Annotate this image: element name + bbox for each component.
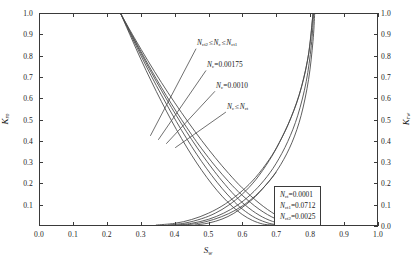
y-tick-right-0: [374, 226, 378, 227]
y-tick-label-left-2: 0.3: [23, 158, 33, 167]
y-tick-left-0: [39, 205, 43, 206]
y-tick-label-left-3: 0.4: [23, 136, 33, 145]
annotation-nc-0010: Nc=0.0010: [216, 81, 248, 90]
x-tick-label-3: 0.3: [136, 230, 146, 239]
x-tick-top-3: [141, 13, 142, 17]
y-tick-left-3: [39, 141, 43, 142]
x-tick-bottom-1: [73, 222, 74, 226]
legend-row-2: Nct2=0.0025: [280, 212, 315, 223]
annotation-nc-le-nct: Nc ≤ Nct: [227, 102, 248, 111]
y-tick-left-7: [39, 56, 43, 57]
x-tick-bottom-2: [107, 222, 108, 226]
x-tick-label-0: 0.0: [34, 230, 44, 239]
y-tick-right-2: [374, 183, 378, 184]
x-tick-top-7: [276, 13, 277, 17]
legend-row-1: Nct1=0.0712: [280, 201, 315, 212]
x-tick-bottom-5: [209, 222, 210, 226]
x-tick-label-2: 0.2: [102, 230, 112, 239]
x-tick-top-10: [378, 13, 379, 17]
y-tick-right-7: [374, 77, 378, 78]
x-tick-label-9: 0.9: [339, 230, 349, 239]
x-tick-bottom-10: [378, 222, 379, 226]
x-tick-top-8: [310, 13, 311, 17]
y-tick-right-10: [374, 13, 378, 14]
y-tick-label-left-8: 0.9: [23, 30, 33, 39]
y-tick-label-right-4: 0.4: [381, 136, 391, 145]
y-tick-right-9: [374, 34, 378, 35]
y-axis-title-right: Krw: [401, 113, 412, 125]
y-tick-label-left-0: 0.1: [23, 200, 33, 209]
x-tick-top-5: [209, 13, 210, 17]
x-tick-label-1: 0.1: [68, 230, 78, 239]
y-tick-label-right-7: 0.7: [381, 72, 391, 81]
y-axis-title-left: Kro: [0, 113, 10, 124]
x-tick-label-10: 1.0: [373, 230, 383, 239]
y-tick-label-left-5: 0.6: [23, 94, 33, 103]
y-tick-left-2: [39, 162, 43, 163]
y-tick-right-6: [374, 98, 378, 99]
y-tick-label-right-0: 0.0: [381, 222, 391, 231]
y-tick-label-left-6: 0.7: [23, 72, 33, 81]
y-tick-left-8: [39, 34, 43, 35]
x-tick-top-1: [73, 13, 74, 17]
leader-line-1: [158, 70, 206, 139]
y-axis-right-subscript: rw: [405, 113, 411, 119]
legend-value-0: =0.0001: [288, 190, 313, 199]
x-tick-top-4: [175, 13, 176, 17]
y-tick-label-left-7: 0.8: [23, 51, 33, 60]
y-tick-label-right-6: 0.6: [381, 94, 391, 103]
x-tick-label-7: 0.7: [271, 230, 281, 239]
x-tick-top-9: [344, 13, 345, 17]
legend-value-2: =0.0025: [291, 212, 316, 221]
legend-value-1: =0.0712: [291, 201, 316, 210]
x-axis-title: Sw: [204, 245, 212, 256]
x-tick-top-6: [242, 13, 243, 17]
x-tick-bottom-4: [175, 222, 176, 226]
y-tick-label-right-2: 0.2: [381, 179, 391, 188]
y-tick-label-right-3: 0.3: [381, 158, 391, 167]
x-tick-label-8: 0.8: [305, 230, 315, 239]
y-tick-label-left-4: 0.5: [23, 115, 33, 124]
y-axis-left-subscript: ro: [4, 113, 10, 118]
y-tick-right-4: [374, 141, 378, 142]
x-tick-bottom-3: [141, 222, 142, 226]
y-axis-left-symbol: K: [0, 119, 10, 125]
legend-box: Nct=0.0001Nct1=0.0712Nct2=0.0025: [274, 186, 321, 226]
y-tick-label-right-5: 0.5: [381, 115, 391, 124]
y-tick-left-9: [39, 13, 43, 14]
relative-permeability-chart: 0.00.10.20.30.40.50.60.70.80.91.00.10.20…: [0, 0, 414, 273]
y-tick-left-6: [39, 77, 43, 78]
y-tick-right-8: [374, 56, 378, 57]
y-tick-label-right-8: 0.8: [381, 51, 391, 60]
y-tick-right-5: [374, 120, 378, 121]
x-tick-top-2: [107, 13, 108, 17]
x-tick-bottom-0: [39, 222, 40, 226]
y-tick-label-right-1: 0.1: [381, 200, 391, 209]
y-tick-right-1: [374, 205, 378, 206]
annotation-nc-00175: Nc=0.00175: [207, 60, 243, 69]
legend-row-0: Nct=0.0001: [280, 190, 315, 201]
annotation-nct-range: Nct2 ≤ Nc ≤ Nct1: [197, 38, 237, 47]
y-tick-left-4: [39, 120, 43, 121]
y-tick-left-5: [39, 98, 43, 99]
x-tick-bottom-9: [344, 222, 345, 226]
x-axis-subscript: w: [208, 250, 212, 256]
leader-line-3: [175, 112, 226, 148]
x-tick-label-5: 0.5: [204, 230, 214, 239]
y-tick-label-left-1: 0.2: [23, 179, 33, 188]
x-tick-label-4: 0.4: [170, 230, 180, 239]
x-tick-bottom-6: [242, 222, 243, 226]
y-tick-right-3: [374, 162, 378, 163]
y-axis-right-symbol: K: [401, 119, 411, 125]
x-tick-label-6: 0.6: [237, 230, 247, 239]
y-tick-label-left-9: 1.0: [23, 9, 33, 18]
y-tick-left-1: [39, 183, 43, 184]
y-tick-label-right-9: 0.9: [381, 30, 391, 39]
y-tick-label-right-10: 1.0: [381, 9, 391, 18]
